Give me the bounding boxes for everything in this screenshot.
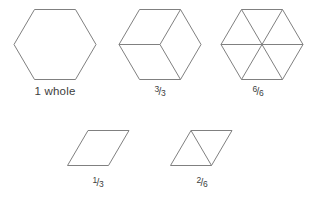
hexagon-thirds-divider-downright bbox=[160, 45, 181, 80]
fraction-denominator: 6 bbox=[203, 179, 208, 189]
caption-rhombus-two-sixths: 2/6 bbox=[158, 176, 246, 188]
fraction-diagram-canvas bbox=[0, 0, 312, 203]
hexagon-thirds-divider-upright bbox=[160, 10, 181, 45]
shape-hexagon-thirds bbox=[119, 10, 201, 80]
fraction-denominator: 3 bbox=[99, 179, 104, 189]
fraction-one-third: 1/3 bbox=[92, 176, 103, 188]
rhombus-two-sixths-divider bbox=[191, 131, 212, 166]
fraction-denominator: 3 bbox=[161, 88, 166, 98]
caption-rhombus-one-third: 1/3 bbox=[54, 176, 142, 188]
rhombus-one-third-outline bbox=[68, 131, 130, 166]
caption-hexagon-whole: 1 whole bbox=[6, 86, 104, 98]
shape-hexagon-sixths bbox=[221, 10, 303, 80]
hexagon-whole-outline bbox=[14, 10, 96, 80]
caption-hexagon-thirds: 3/3 bbox=[116, 85, 204, 97]
fraction-three-thirds: 3/3 bbox=[154, 85, 165, 97]
shape-rhombus-one-third bbox=[68, 131, 130, 166]
fraction-six-sixths: 6/6 bbox=[252, 85, 263, 97]
shape-hexagon-whole bbox=[14, 10, 96, 80]
shape-rhombus-two-sixths bbox=[171, 131, 233, 166]
fraction-two-sixths: 2/6 bbox=[196, 176, 207, 188]
fraction-denominator: 6 bbox=[259, 88, 264, 98]
caption-hexagon-sixths: 6/6 bbox=[212, 85, 304, 97]
